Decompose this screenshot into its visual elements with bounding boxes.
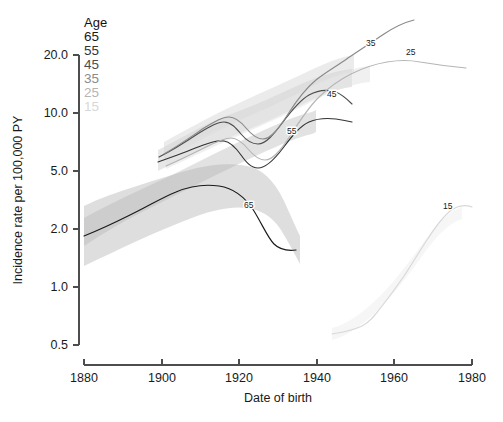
y-tick-label-5: 5.0 (51, 164, 68, 178)
curve-label-45: 45 (327, 89, 337, 99)
x-tick-label-1900: 1900 (148, 371, 176, 385)
legend-item-35[interactable]: 35 (84, 71, 99, 86)
x-axis-title: Date of birth (244, 391, 312, 405)
series-curves (84, 20, 472, 334)
legend-item-55[interactable]: 55 (84, 43, 99, 58)
curve-age-15 (332, 206, 472, 334)
legend-item-15[interactable]: 15 (84, 99, 99, 114)
y-tick-label-20: 20.0 (44, 48, 68, 62)
x-tick-label-1960: 1960 (380, 371, 408, 385)
legend-title: Age (84, 15, 107, 30)
y-tick-label-2: 2.0 (51, 222, 68, 236)
curve-label-55: 55 (287, 126, 297, 136)
y-tick-label-0p5: 0.5 (51, 338, 68, 352)
curve-label-25: 25 (406, 47, 416, 57)
x-tick-label-1880: 1880 (70, 371, 98, 385)
legend-item-45[interactable]: 45 (84, 57, 99, 72)
x-tick-label-1920: 1920 (225, 371, 253, 385)
y-tick-label-10: 10.0 (44, 106, 68, 120)
y-tick-label-1: 1.0 (51, 280, 68, 294)
confidence-band-15 (332, 207, 462, 340)
legend-item-25[interactable]: 25 (84, 85, 99, 100)
confidence-bands (84, 55, 462, 340)
y-axis: 20.0 10.0 5.0 2.0 1.0 0.5 Incidence rate… (11, 48, 79, 352)
chart-figure: 65 65 55 55 45 45 35 35 25 25 15 15 20.0… (0, 0, 503, 422)
x-tick-label-1940: 1940 (303, 371, 331, 385)
incidence-rate-line-chart: 65 65 55 55 45 45 35 35 25 25 15 15 20.0… (0, 0, 503, 422)
curve-label-15: 15 (443, 201, 453, 211)
y-axis-title: Incidence rate per 100,000 PY (11, 115, 25, 285)
curve-label-65: 65 (244, 200, 254, 210)
legend: Age 65 55 45 35 25 15 (84, 15, 107, 114)
confidence-band-25 (166, 66, 370, 169)
legend-item-65[interactable]: 65 (84, 29, 99, 44)
x-tick-label-1980: 1980 (458, 371, 486, 385)
curve-label-35: 35 (366, 38, 376, 48)
x-axis: 1880 1900 1920 1940 1960 1980 Date of bi… (70, 359, 486, 405)
